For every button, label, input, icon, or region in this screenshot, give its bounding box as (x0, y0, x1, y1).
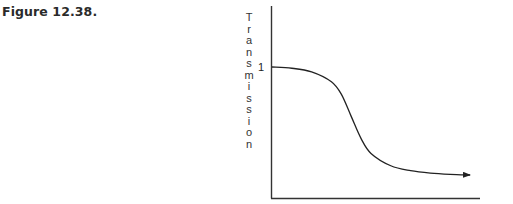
transmission-curve (272, 67, 470, 175)
transmission-plot (0, 0, 513, 204)
